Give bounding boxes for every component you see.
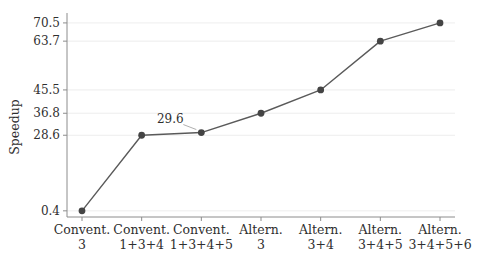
x-tick-label-line2: 1+3+4+5 — [170, 237, 233, 252]
x-tick-label-line2: 3 — [257, 237, 265, 252]
data-point — [258, 110, 265, 117]
data-point — [79, 207, 86, 214]
y-axis-label: Speedup — [7, 99, 22, 154]
x-tick-label-line1: Altern. — [358, 222, 402, 237]
y-tick-label: 0.4 — [41, 204, 60, 218]
x-tick-label-line1: Altern. — [298, 222, 342, 237]
data-point — [377, 38, 384, 45]
annotation-pointer-line — [183, 125, 196, 130]
y-tick-label: 28.6 — [33, 128, 60, 142]
speedup-line-chart: 0.428.636.845.563.770.5Convent.3Convent.… — [0, 0, 477, 261]
y-tick-label: 45.5 — [33, 83, 60, 97]
y-tick-label: 63.7 — [33, 34, 60, 48]
x-tick-label-line1: Altern. — [417, 222, 461, 237]
data-point — [198, 129, 205, 136]
x-tick-label-line2: 3+4+5+6 — [408, 237, 471, 252]
x-tick-label-line1: Convent. — [54, 222, 111, 237]
annotation-label: 29.6 — [157, 112, 184, 126]
data-point — [138, 132, 145, 139]
x-tick-label-line2: 3+4+5 — [358, 237, 403, 252]
data-point — [437, 20, 444, 27]
data-line — [82, 23, 440, 211]
x-tick-label-line1: Altern. — [238, 222, 282, 237]
x-tick-label-line1: Convent. — [113, 222, 170, 237]
x-tick-label-line1: Convent. — [173, 222, 230, 237]
y-tick-label: 70.5 — [33, 16, 60, 30]
x-tick-label-line2: 1+3+4 — [119, 237, 164, 252]
x-tick-label-line2: 3+4 — [307, 237, 333, 252]
y-tick-label: 36.8 — [33, 106, 60, 120]
chart-canvas: 0.428.636.845.563.770.5Convent.3Convent.… — [0, 0, 477, 261]
data-point — [317, 87, 324, 94]
x-tick-label-line2: 3 — [78, 237, 86, 252]
